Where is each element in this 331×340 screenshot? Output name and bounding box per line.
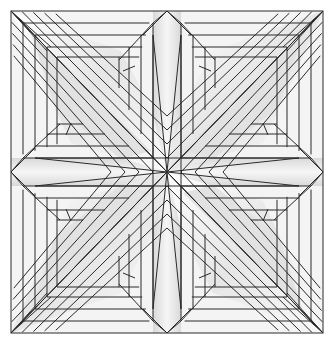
pattern-canvas: [0, 0, 331, 340]
crease-pattern-diagram: [0, 0, 331, 340]
